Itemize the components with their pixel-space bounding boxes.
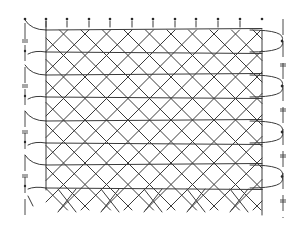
pin-dot	[131, 18, 134, 21]
diagonal-thread	[253, 30, 262, 39]
left-return-curve	[28, 187, 46, 189]
pin-dot	[109, 18, 112, 21]
diagonal-thread	[46, 30, 111, 95]
pin-dot	[195, 18, 198, 21]
diagonal-thread	[46, 60, 197, 211]
left-return-curve	[25, 20, 46, 30]
left-pin	[24, 141, 26, 143]
right-pin	[281, 40, 284, 43]
right-return-curve	[250, 30, 283, 52]
pin-dot	[217, 18, 220, 21]
diagonal-thread	[46, 30, 218, 202]
right-return-curve	[250, 165, 283, 188]
left-return-curve	[25, 155, 46, 165]
diagonal-thread	[167, 115, 262, 210]
left-return-curve	[28, 51, 46, 54]
row-thread	[46, 120, 262, 122]
horizontal-threads	[46, 29, 262, 190]
row-thread	[46, 52, 262, 54]
diagonal-thread	[189, 137, 263, 211]
right-pin	[281, 85, 284, 88]
diagonal-thread	[189, 30, 263, 104]
left-end-arrow	[28, 196, 33, 206]
left-return-curve	[25, 111, 46, 121]
pin-dot	[45, 18, 48, 21]
row-thread	[46, 29, 262, 31]
diagonal-thread	[210, 158, 262, 210]
left-pin	[24, 50, 26, 52]
pin-dot	[88, 18, 91, 21]
diagonal-thread	[146, 94, 263, 211]
left-return-curve	[28, 142, 46, 145]
right-pin	[281, 131, 284, 134]
right-return-curve	[250, 75, 283, 97]
diagonal-thread	[146, 30, 263, 147]
left-pin	[24, 185, 26, 187]
diagonal-thread	[103, 30, 263, 190]
diagonal-thread	[46, 30, 175, 159]
diagonal-thread	[46, 81, 175, 210]
top-pins	[24, 18, 264, 27]
row-thread	[46, 143, 262, 145]
diagonal-thread	[253, 201, 262, 210]
left-return-curve	[28, 96, 46, 99]
diagonal-thread	[167, 30, 262, 125]
left-return-curve	[25, 65, 46, 75]
right-pin	[281, 175, 284, 178]
diagonal-thread	[46, 30, 154, 138]
diagonal-thread	[124, 30, 262, 168]
pin-dot	[239, 18, 242, 21]
row-thread	[46, 164, 262, 166]
pin-dot	[174, 18, 177, 21]
left-pin	[24, 95, 26, 97]
pin-dot	[152, 18, 155, 21]
lace-pattern-diagram	[0, 0, 303, 225]
pin-dot	[261, 18, 264, 21]
diagonal-thread	[46, 30, 89, 73]
left-edge-footside	[22, 20, 46, 216]
pin-dot	[66, 18, 69, 21]
row-thread	[46, 97, 262, 99]
row-thread	[46, 74, 262, 76]
diagonal-thread	[46, 146, 111, 211]
